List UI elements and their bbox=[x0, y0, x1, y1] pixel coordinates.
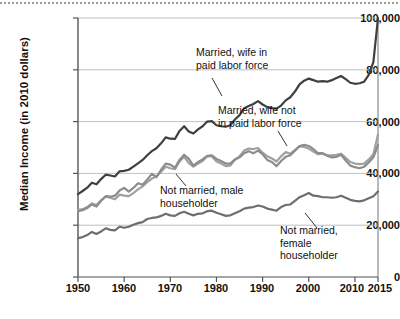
annotation-line: Married, wife in bbox=[196, 46, 268, 59]
annotation-line: female bbox=[280, 237, 338, 250]
annotation-line: householder bbox=[280, 249, 338, 262]
annotation-married-wife-in-labor-force: Married, wife in paid labor force bbox=[196, 46, 268, 71]
annotation-line: householder bbox=[160, 197, 243, 210]
annotation-line: in paid labor force bbox=[218, 117, 301, 130]
annotation-line: Not married, bbox=[280, 224, 338, 237]
annotation-not-married-male-householder: Not married, male householder bbox=[160, 184, 243, 209]
annotation-not-married-female-householder: Not married, female householder bbox=[280, 224, 338, 262]
annotation-married-wife-not-in-labor-force: Married, wife not in paid labor force bbox=[218, 104, 301, 129]
annotation-line: Not married, male bbox=[160, 184, 243, 197]
annotation-line: Married, wife not bbox=[218, 104, 301, 117]
annotation-line: paid labor force bbox=[196, 59, 268, 72]
chart-figure: Median Income (in 2010 dollars) 100,000 … bbox=[0, 0, 400, 319]
